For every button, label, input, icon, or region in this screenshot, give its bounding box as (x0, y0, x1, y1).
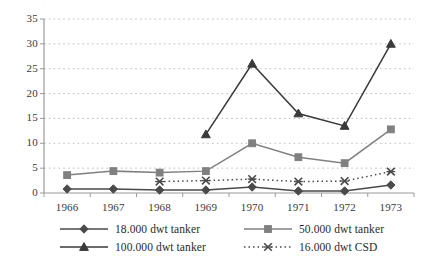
chart-figure: 05101520253035 1966196719681969197019711… (0, 0, 426, 264)
x-tick-label: 1969 (181, 201, 231, 213)
data-point-x (264, 243, 273, 251)
data-point-x (386, 168, 395, 176)
data-point-square (202, 168, 209, 175)
series-3 (155, 168, 395, 186)
data-point-triangle (248, 59, 257, 67)
y-tick-label: 0 (10, 186, 38, 198)
series-1 (64, 126, 395, 179)
legend-label: 50.000 dwt tanker (299, 222, 384, 236)
x-tick-label: 1973 (366, 201, 416, 213)
data-point-square (341, 160, 348, 167)
x-tick-label: 1970 (227, 201, 277, 213)
x-tick-label: 1971 (273, 201, 323, 213)
data-point-triangle (386, 39, 395, 47)
legend-item-16000-dwt-csd[interactable]: 16.000 dwt CSD (242, 239, 426, 255)
data-point-x (155, 178, 164, 186)
legend-grid: 18.000 dwt tanker 50.000 dwt tanker 100.… (0, 214, 426, 255)
data-point-square (156, 169, 163, 176)
legend-label: 16.000 dwt CSD (299, 240, 377, 254)
x-tick-label: 1968 (135, 201, 185, 213)
legend-item-18000-dwt-tanker[interactable]: 18.000 dwt tanker (58, 221, 242, 237)
x-tick-label: 1966 (42, 201, 92, 213)
y-tick-label: 25 (10, 62, 38, 74)
series-line (206, 44, 391, 134)
plot-area: 05101520253035 1966196719681969197019711… (0, 0, 426, 214)
data-point-square (387, 126, 394, 133)
y-tick-label: 10 (10, 136, 38, 148)
data-point-x (248, 175, 257, 183)
data-point-diamond (63, 185, 71, 193)
y-tick-label: 30 (10, 37, 38, 49)
data-point-triangle (201, 130, 210, 138)
data-point-diamond (340, 187, 348, 195)
legend-label: 100.000 dwt tanker (115, 240, 206, 254)
chart-legend: 18.000 dwt tanker 50.000 dwt tanker 100.… (0, 214, 426, 264)
legend-item-100000-dwt-tanker[interactable]: 100.000 dwt tanker (58, 239, 242, 255)
legend-label: 18.000 dwt tanker (115, 222, 200, 236)
y-tick-label: 15 (10, 111, 38, 123)
legend-key-triangle-icon (58, 240, 110, 254)
data-point-square (249, 140, 256, 147)
x-tick-label: 1972 (320, 201, 370, 213)
data-point-diamond (387, 181, 395, 189)
data-point-diamond (248, 183, 256, 191)
x-tick-label: 1967 (88, 201, 138, 213)
data-point-x (294, 178, 303, 186)
data-point-diamond (294, 187, 302, 195)
data-point-x (340, 177, 349, 185)
data-point-square (110, 168, 117, 175)
legend-key-diamond-icon (58, 222, 110, 236)
data-point-square (295, 154, 302, 161)
y-tick-label: 20 (10, 87, 38, 99)
data-point-square (64, 172, 71, 179)
legend-key-square-icon (242, 222, 294, 236)
data-point-x (201, 177, 210, 185)
y-tick-label: 35 (10, 12, 38, 24)
y-tick-label: 5 (10, 161, 38, 173)
legend-key-x-dotted-icon (242, 240, 294, 254)
data-point-square (265, 226, 272, 233)
data-point-diamond (80, 225, 88, 233)
legend-item-50000-dwt-tanker[interactable]: 50.000 dwt tanker (242, 221, 426, 237)
plot-svg (0, 0, 426, 214)
series-line (160, 172, 391, 182)
series-2 (201, 39, 395, 137)
data-point-diamond (109, 185, 117, 193)
